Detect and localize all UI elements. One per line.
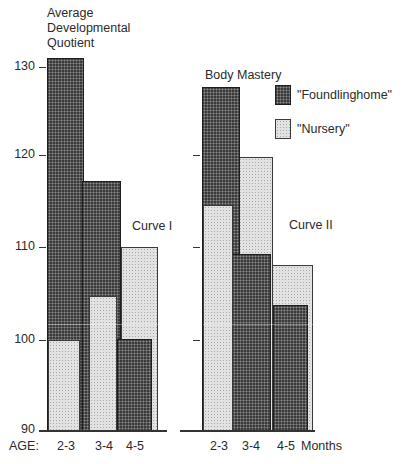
tick-mark <box>193 247 200 248</box>
xtick-left-4-5: 4-5 <box>126 439 144 454</box>
months-label: Months <box>301 439 342 454</box>
bar-curve1-nursery-2-3 <box>48 340 80 431</box>
ytick-110: 110 <box>5 239 35 253</box>
y-axis-title-line1: Average <box>47 6 93 21</box>
bar-curve1-nursery-3-4 <box>89 296 117 431</box>
ytick-120: 120 <box>5 147 35 161</box>
ytick-130: 130 <box>5 59 35 73</box>
curve2-label: Curve II <box>289 218 333 233</box>
xtick-right-3-4: 3-4 <box>242 439 260 454</box>
x-axis-right <box>180 430 315 432</box>
y-axis-title-line2: Developmental <box>47 21 130 36</box>
reference-line <box>203 324 313 325</box>
curve1-label: Curve I <box>132 219 172 234</box>
age-label: AGE: <box>9 439 39 454</box>
reference-line <box>48 324 158 325</box>
tick-mark <box>39 247 46 248</box>
ytick-100: 100 <box>5 332 35 346</box>
tick-mark <box>193 340 200 341</box>
tick-mark <box>193 155 200 156</box>
body-mastery-label: Body Mastery <box>205 68 281 83</box>
ytick-90: 90 <box>5 422 35 436</box>
legend-swatch-nursery <box>275 119 291 139</box>
bar-curve2-foundling-3-4 <box>232 254 271 431</box>
tick-mark <box>39 340 46 341</box>
tick-mark <box>39 67 46 68</box>
xtick-left-3-4: 3-4 <box>95 439 113 454</box>
xtick-right-4-5: 4-5 <box>277 439 295 454</box>
bar-curve2-nursery-2-3 <box>203 205 233 431</box>
xtick-right-2-3: 2-3 <box>210 439 228 454</box>
x-axis-left <box>39 430 167 432</box>
legend-label-nursery: "Nursery" <box>297 122 350 137</box>
bar-curve1-foundling-4-5 <box>117 339 152 431</box>
xtick-left-2-3: 2-3 <box>57 439 75 454</box>
legend-label-foundling: "Foundlinghome" <box>297 88 392 103</box>
legend-swatch-foundling <box>275 85 291 105</box>
y-axis-title-line3: Quotient <box>47 36 94 51</box>
tick-mark <box>39 155 46 156</box>
